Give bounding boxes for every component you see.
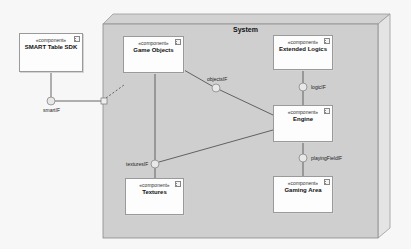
logicif-interface-icon	[299, 83, 307, 91]
component-name: Extended Logics	[274, 45, 332, 53]
smartif-label: smartIF	[43, 107, 60, 113]
component-icon	[324, 179, 330, 185]
smartif-interface-icon	[47, 97, 55, 105]
component-name: SMART Table SDK	[20, 43, 82, 51]
component-name: Textures	[126, 188, 183, 196]
component-icon	[74, 36, 80, 42]
component-icon	[175, 39, 181, 45]
component-extended-logics[interactable]: «component» Extended Logics	[273, 35, 333, 70]
playingfieldif-label: playingFieldIF	[311, 155, 342, 161]
component-smart-table-sdk[interactable]: «component» SMART Table SDK	[19, 33, 83, 72]
component-icon	[324, 38, 330, 44]
component-name: Gaming Area	[274, 186, 332, 194]
component-icon	[324, 108, 330, 114]
objectsif-interface-icon	[212, 84, 220, 92]
system-title: System	[233, 26, 258, 33]
objectsif-label: objectsIF	[207, 76, 227, 82]
component-name: Game Objects	[124, 46, 183, 54]
texturesif-label: texturesIF	[126, 161, 148, 167]
component-game-objects[interactable]: «component» Game Objects	[123, 36, 184, 73]
component-gaming-area[interactable]: «component» Gaming Area	[273, 176, 333, 213]
playingfieldif-interface-icon	[299, 154, 307, 162]
component-icon	[175, 181, 181, 187]
component-engine[interactable]: «component» Engine	[273, 105, 333, 142]
component-name: Engine	[274, 115, 332, 123]
system-port	[101, 98, 107, 104]
component-textures[interactable]: «component» Textures	[125, 178, 184, 215]
logicif-label: logicIF	[311, 84, 326, 90]
texturesif-interface-icon	[151, 160, 159, 168]
